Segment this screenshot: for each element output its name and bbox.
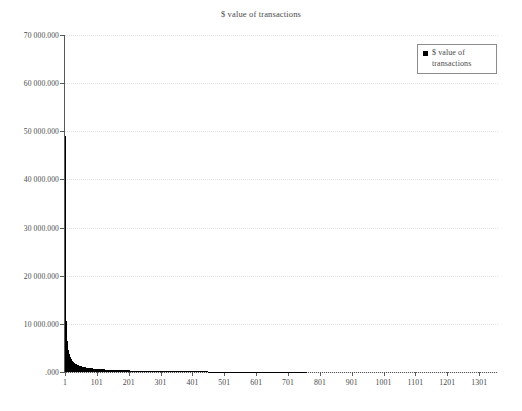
x-tick-mark [447, 372, 448, 376]
y-tick-mark [60, 35, 64, 36]
y-tick-label: 50 000.000 [24, 127, 59, 136]
x-tick-label: 1001 [376, 378, 392, 387]
y-tick-mark [60, 131, 64, 132]
y-tick-label: 30 000.000 [24, 223, 59, 232]
x-tick-label: 701 [282, 378, 294, 387]
x-tick-mark [479, 372, 480, 376]
x-tick-mark [384, 372, 385, 376]
x-tick-label: 301 [155, 378, 167, 387]
y-tick-mark [60, 372, 64, 373]
x-tick-label: 401 [186, 378, 198, 387]
y-tick-label: 10 000.000 [24, 319, 59, 328]
chart-title: $ value of transactions [0, 9, 522, 19]
x-tick-label: 201 [123, 378, 135, 387]
x-tick-mark [224, 372, 225, 376]
x-tick-mark [161, 372, 162, 376]
legend-swatch-icon [423, 51, 428, 56]
x-tick-label: 601 [250, 378, 262, 387]
x-tick-label: 101 [91, 378, 103, 387]
y-tick-mark [60, 179, 64, 180]
y-tick-label: 70 000.000 [24, 31, 59, 40]
x-tick-mark [320, 372, 321, 376]
x-tick-label: 1 [63, 378, 67, 387]
x-tick-label: 501 [218, 378, 230, 387]
x-tick-mark [352, 372, 353, 376]
y-tick-mark [60, 276, 64, 277]
y-tick-label: 60 000.000 [24, 79, 59, 88]
x-tick-mark [415, 372, 416, 376]
x-tick-mark [129, 372, 130, 376]
x-tick-label: 1301 [471, 378, 487, 387]
y-tick-mark [60, 228, 64, 229]
y-tick-mark [60, 83, 64, 84]
x-tick-mark [288, 372, 289, 376]
legend-item-label: $ value of transactions [432, 48, 490, 69]
x-tick-label: 901 [346, 378, 358, 387]
y-tick-label: .000 [45, 368, 59, 377]
x-tick-mark [256, 372, 257, 376]
bar-series [65, 35, 498, 372]
x-tick-mark [65, 372, 66, 376]
y-tick-mark [60, 324, 64, 325]
chart-legend: $ value of transactions [417, 44, 497, 74]
y-tick-label: 20 000.000 [24, 271, 59, 280]
plot-area: 70 000.00060 000.00050 000.00040 000.000… [65, 35, 498, 372]
x-tick-label: 1101 [408, 378, 424, 387]
gridline [65, 372, 498, 373]
x-tick-label: 801 [314, 378, 326, 387]
x-tick-mark [97, 372, 98, 376]
y-tick-label: 40 000.000 [24, 175, 59, 184]
x-tick-mark [192, 372, 193, 376]
x-tick-label: 1201 [439, 378, 455, 387]
chart-container: $ value of transactions 70 000.00060 000… [0, 0, 522, 411]
